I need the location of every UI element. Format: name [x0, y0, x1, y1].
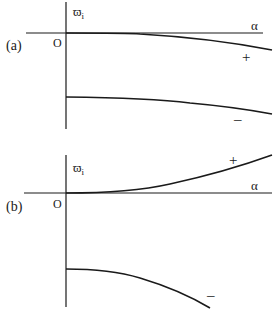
- panel-a-origin-label: O: [53, 36, 62, 50]
- panel-b-x-axis-label: α: [251, 178, 258, 193]
- diagram-canvas: ϖi α O (a) + – ϖi α O (b) + –: [0, 0, 276, 315]
- panel-a-plus-sign: +: [242, 49, 250, 65]
- panel-b-y-axis-label: ϖi: [73, 160, 85, 177]
- panel-b: ϖi α O (b) + –: [6, 152, 272, 308]
- panel-a-minus-sign: –: [233, 111, 242, 127]
- panel-a-y-axis-label: ϖi: [73, 4, 85, 21]
- panel-a: ϖi α O (a) + –: [6, 2, 272, 129]
- panel-a-x-axis-label: α: [251, 18, 258, 33]
- panel-a-label: (a): [6, 38, 22, 54]
- panel-b-lower-curve: [66, 269, 210, 308]
- panel-b-origin-label: O: [53, 197, 62, 211]
- panel-b-upper-curve: [66, 155, 272, 193]
- panel-b-minus-sign: –: [206, 287, 215, 303]
- panel-a-upper-curve: [66, 33, 272, 50]
- panel-b-plus-sign: +: [229, 152, 237, 168]
- panel-b-label: (b): [6, 199, 23, 215]
